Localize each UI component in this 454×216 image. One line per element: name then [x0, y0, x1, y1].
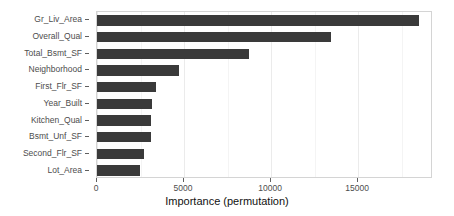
y-tick-label: Second_Flr_SF — [23, 148, 82, 158]
y-tick-label: Gr_Liv_Area — [34, 14, 82, 24]
x-tick-label: 10000 — [258, 183, 282, 193]
y-tick-mark — [85, 69, 89, 70]
y-tick-mark — [85, 36, 89, 37]
bar — [97, 15, 419, 25]
bar — [97, 82, 156, 92]
x-axis-title: Importance (permutation) — [0, 195, 454, 207]
x-tick-mark — [183, 178, 184, 182]
bar — [97, 65, 179, 75]
y-tick-mark — [85, 136, 89, 137]
y-tick-mark — [85, 170, 89, 171]
y-tick-label: Total_Bsmt_SF — [24, 48, 82, 58]
bar — [97, 99, 152, 109]
bar — [97, 32, 331, 42]
y-tick-label: Neighborhood — [29, 64, 82, 74]
bar — [97, 132, 151, 142]
bar — [97, 49, 249, 59]
plot-panel — [96, 11, 432, 178]
y-tick-mark — [85, 86, 89, 87]
y-tick-label: First_Flr_SF — [35, 81, 82, 91]
y-tick-label: Overall_Qual — [32, 31, 82, 41]
y-tick-label: Kitchen_Qual — [31, 115, 82, 125]
x-axis: Importance (permutation) 050001000015000 — [0, 178, 454, 216]
bar — [97, 149, 144, 159]
bar — [97, 115, 151, 125]
x-tick-label: 0 — [94, 183, 99, 193]
x-tick-mark — [357, 178, 358, 182]
y-tick-mark — [85, 53, 89, 54]
bar — [97, 165, 140, 175]
y-tick-mark — [85, 153, 89, 154]
bars-layer — [97, 12, 431, 177]
permutation-importance-bar-chart: Gr_Liv_AreaOverall_QualTotal_Bsmt_SFNeig… — [0, 0, 454, 216]
x-tick-label: 15000 — [345, 183, 369, 193]
y-tick-label: Lot_Area — [48, 165, 83, 175]
y-tick-mark — [85, 19, 89, 20]
y-tick-mark — [85, 120, 89, 121]
y-axis: Gr_Liv_AreaOverall_QualTotal_Bsmt_SFNeig… — [0, 11, 90, 178]
x-tick-mark — [270, 178, 271, 182]
y-tick-label: Year_Built — [44, 98, 82, 108]
y-tick-label: Bsmt_Unf_SF — [29, 131, 82, 141]
x-tick-label: 5000 — [174, 183, 193, 193]
y-tick-mark — [85, 103, 89, 104]
x-tick-mark — [96, 178, 97, 182]
